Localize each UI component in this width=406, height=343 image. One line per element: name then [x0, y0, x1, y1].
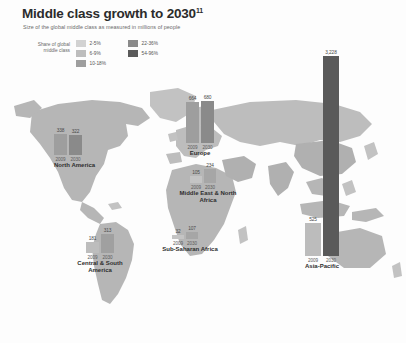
- legend-item-label: 22-36%: [142, 41, 159, 46]
- region-label: Central & South America: [68, 260, 132, 274]
- bar-pair: 105 2009 234 2030: [190, 163, 240, 190]
- bar-2030: [69, 135, 82, 155]
- bar-2009: [186, 102, 199, 143]
- bar-2030: [204, 169, 216, 183]
- bar-year: 2009: [308, 258, 318, 263]
- landmass-caribbean: [108, 202, 122, 210]
- region-group-north-america: 338 2009 322 2030 North America: [54, 128, 95, 169]
- bar-2030: [201, 101, 214, 143]
- region-label: Middle East & North Africa: [176, 190, 240, 204]
- bar-year: 2009: [88, 255, 98, 260]
- bar-pair: 338 2009 322 2030: [54, 128, 95, 162]
- legend-swatch-icon: [76, 40, 86, 47]
- bar-value: 313: [104, 228, 112, 233]
- landmass-iberia: [166, 152, 182, 164]
- page-title: Middle class growth to 203011: [22, 6, 203, 21]
- page-title-text: Middle class growth to 2030: [22, 6, 196, 21]
- bar-column: 107 2030: [186, 226, 198, 246]
- bar-value: 664: [189, 96, 197, 101]
- legend-swatch-icon: [128, 40, 138, 47]
- region-group-middle-east-north-africa: 105 2009 234 2030 Middle East & North Af…: [190, 163, 240, 204]
- region-label: Sub-Saharan Africa: [158, 246, 222, 253]
- bar-year: 2009: [191, 185, 201, 190]
- bar-column: 234 2030: [204, 163, 216, 190]
- bar-pair: 664 2009 680 2030: [186, 95, 214, 150]
- region-label: Europe: [186, 150, 214, 157]
- bar-year: 2030: [187, 241, 197, 246]
- bar-value: 338: [57, 128, 65, 133]
- bar-value: 525: [309, 217, 317, 222]
- bar-year: 2009: [173, 241, 183, 246]
- legend-item-label: 6-9%: [90, 51, 101, 56]
- legend: Share of global middle class 2-5% 6-9% 1…: [24, 38, 174, 78]
- bar-value: 680: [204, 95, 212, 100]
- landmass-japan: [364, 142, 378, 160]
- legend-item: 22-36%: [128, 40, 158, 47]
- bar-year: 2009: [188, 145, 198, 150]
- bar-column: 3,228 2030: [323, 50, 339, 263]
- region-label: North America: [54, 162, 95, 169]
- region-label: Asia-Pacific: [305, 263, 339, 270]
- bar-2030: [186, 232, 198, 239]
- bar-column: 313 2030: [101, 228, 114, 260]
- landmass-russia-asia: [212, 100, 372, 146]
- bar-column: 105 2009: [190, 170, 202, 190]
- bar-year: 2030: [326, 258, 336, 263]
- legend-swatch-icon: [128, 50, 138, 57]
- landmass-central-america: [80, 202, 104, 224]
- legend-column-left: 2-5% 6-9% 10-18%: [76, 40, 106, 71]
- region-group-asia-pacific: 525 2009 3,228 2030 Asia-Pacific: [305, 50, 339, 270]
- bar-column: 32 2009: [172, 229, 184, 246]
- legend-swatch-icon: [76, 60, 86, 67]
- region-group-sub-saharan-africa: 32 2009 107 2030 Sub-Saharan Africa: [172, 226, 222, 253]
- bar-year: 2030: [203, 145, 213, 150]
- landmass-new-guinea: [352, 208, 384, 222]
- bar-2009: [305, 223, 321, 256]
- landmass-philippines: [342, 180, 356, 196]
- region-group-central-south-america: 181 2009 313 2030 Central & South Americ…: [86, 228, 132, 274]
- bar-value: 234: [206, 163, 214, 168]
- bar-2009: [172, 235, 184, 239]
- page-title-superscript: 11: [196, 7, 203, 14]
- bar-column: 181 2009: [86, 236, 99, 260]
- landmass-madagascar: [238, 226, 248, 244]
- landmass-new-zealand: [392, 262, 402, 278]
- legend-item: 6-9%: [76, 50, 106, 57]
- legend-item: 54-96%: [128, 50, 158, 57]
- bar-column: 680 2030: [201, 95, 214, 150]
- region-group-europe: 664 2009 680 2030 Europe: [186, 95, 214, 157]
- bar-value: 32: [175, 229, 180, 234]
- bar-value: 3,228: [325, 50, 337, 55]
- legend-item-label: 54-96%: [142, 51, 159, 56]
- bar-pair: 32 2009 107 2030: [172, 226, 222, 246]
- bar-column: 664 2009: [186, 96, 199, 150]
- bar-pair: 525 2009 3,228 2030: [305, 50, 339, 263]
- legend-column-right: 22-36% 54-96%: [128, 40, 158, 60]
- legend-title: Share of global middle class: [24, 42, 70, 54]
- bar-column: 322 2030: [69, 129, 82, 162]
- bar-value: 181: [89, 236, 97, 241]
- bar-column: 338 2009: [54, 128, 67, 162]
- bar-column: 525 2009: [305, 217, 321, 263]
- bar-year: 2030: [71, 157, 81, 162]
- bar-year: 2030: [205, 185, 215, 190]
- legend-swatch-icon: [76, 50, 86, 57]
- bar-year: 2009: [56, 157, 66, 162]
- bar-year: 2030: [103, 255, 113, 260]
- legend-item: 10-18%: [76, 60, 106, 67]
- bar-value: 322: [72, 129, 80, 134]
- bar-value: 105: [192, 170, 200, 175]
- landmass-india: [268, 162, 294, 196]
- legend-item: 2-5%: [76, 40, 106, 47]
- legend-item-label: 2-5%: [90, 41, 101, 46]
- bar-2009: [190, 176, 202, 183]
- bar-2009: [54, 134, 67, 155]
- bar-2009: [86, 242, 99, 253]
- page-subtitle: Size of the global middle class as measu…: [23, 24, 180, 30]
- bar-2030: [101, 234, 114, 253]
- legend-item-label: 10-18%: [90, 61, 107, 66]
- bar-value: 107: [188, 226, 196, 231]
- bar-2030: [323, 56, 339, 256]
- bar-pair: 181 2009 313 2030: [86, 228, 132, 260]
- infographic-root: Middle class growth to 203011 Size of th…: [0, 0, 406, 343]
